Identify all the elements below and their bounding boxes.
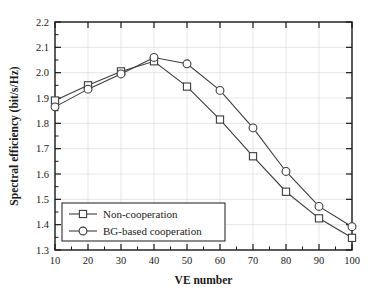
spectral-efficiency-line-chart: 1.31.41.51.61.71.81.92.02.12.21020304050… xyxy=(0,0,376,297)
data-point-square-marker xyxy=(183,83,190,90)
data-point-circle-marker xyxy=(183,60,191,68)
x-axis-title: VE number xyxy=(175,274,233,286)
y-tick-label: 1.5 xyxy=(36,194,49,205)
y-tick-label: 1.6 xyxy=(36,169,49,180)
x-tick-label: 60 xyxy=(215,255,226,266)
y-axis-title: Spectral efficiency (bit/s/Hz) xyxy=(8,66,21,205)
data-point-square-marker xyxy=(315,215,322,222)
x-tick-label: 70 xyxy=(248,255,259,266)
data-point-circle-marker xyxy=(348,223,356,231)
y-tick-label: 2.2 xyxy=(36,17,49,28)
x-tick-label: 80 xyxy=(281,255,292,266)
data-point-square-marker xyxy=(282,188,289,195)
data-point-circle-marker xyxy=(249,124,257,132)
data-point-circle-marker xyxy=(84,85,92,93)
chart-container: 1.31.41.51.61.71.81.92.02.12.21020304050… xyxy=(0,0,376,297)
data-point-circle-marker xyxy=(117,70,125,78)
x-tick-label: 10 xyxy=(50,255,61,266)
y-tick-label: 2.1 xyxy=(36,42,49,53)
legend-marker-circle xyxy=(79,227,87,235)
y-tick-label: 1.8 xyxy=(36,118,49,129)
data-point-square-marker xyxy=(348,234,355,241)
y-tick-label: 2.0 xyxy=(36,67,49,78)
y-tick-label: 1.4 xyxy=(36,219,50,230)
legend-marker-square xyxy=(79,210,86,217)
x-tick-label: 30 xyxy=(116,255,127,266)
data-point-circle-marker xyxy=(51,103,59,111)
y-tick-label: 1.9 xyxy=(36,93,49,104)
data-point-square-marker xyxy=(249,153,256,160)
legend-label-1: Non-cooperation xyxy=(103,208,178,220)
data-point-circle-marker xyxy=(282,168,290,176)
data-point-circle-marker xyxy=(315,203,323,211)
x-tick-label: 20 xyxy=(83,255,94,266)
x-tick-label: 90 xyxy=(314,255,325,266)
data-point-circle-marker xyxy=(216,87,224,95)
y-tick-label: 1.7 xyxy=(36,143,49,154)
legend-label-2: BG-based cooperation xyxy=(103,225,202,237)
x-tick-label: 40 xyxy=(149,255,160,266)
data-point-circle-marker xyxy=(150,54,158,62)
x-tick-label: 50 xyxy=(182,255,193,266)
series-line-2 xyxy=(55,57,352,226)
data-point-square-marker xyxy=(216,116,223,123)
y-tick-label: 1.3 xyxy=(36,245,49,256)
x-tick-label: 100 xyxy=(344,255,360,266)
